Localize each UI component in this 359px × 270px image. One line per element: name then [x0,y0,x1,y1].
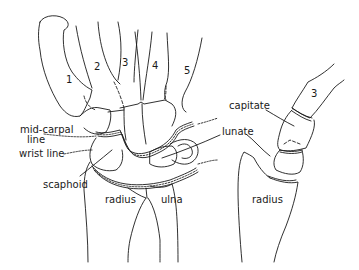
mid-carpal-line-label-2: line [27,135,45,145]
metacarpal-4 [135,32,141,100]
lateral-view-bones [238,64,344,262]
pa-view-bones [39,16,221,262]
metacarpal-2-label: 2 [94,62,100,72]
metacarpal-4-label: 4 [152,61,158,71]
metacarpal-2 [76,26,92,88]
wrist-line-label: wrist line [19,149,64,159]
metacarpal-5-label: 5 [184,66,190,76]
ulna-label: ulna [161,195,183,205]
radius-pa [84,162,90,262]
diagram-drawing [0,0,359,270]
lunate-label: lunate [222,127,254,137]
metacarpal-3-label: 3 [122,58,128,68]
radius-label-pa: radius [105,195,136,205]
metacarpal-3 [118,22,121,80]
metacarpal-3-lateral-label: 3 [311,89,317,99]
ulna-pa [148,198,160,262]
radius-label-lateral: radius [252,195,283,205]
metacarpal-1-label: 1 [66,75,72,85]
mid-carpal-joint [96,122,192,154]
radius-lateral [270,178,298,262]
capitate-lateral [278,110,315,151]
capitate-label: capitate [229,101,270,111]
scaphoid-label: scaphoid [43,180,88,190]
metacarpal-3-lateral [292,64,344,118]
metacarpal-5 [165,33,169,100]
wrist-anatomy-diagram: 1 2 3 4 5 mid-carpal line wrist line sca… [0,0,359,270]
lunate [150,146,177,167]
metacarpal-1 [39,16,93,117]
